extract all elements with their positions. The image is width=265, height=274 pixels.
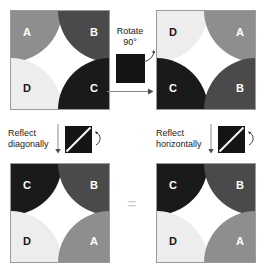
quarter-label: D xyxy=(169,236,177,247)
quarter-diagonal-tr: B xyxy=(58,163,110,215)
quarter-label: A xyxy=(23,27,31,38)
curved-reflect-arrow-icon xyxy=(248,131,258,147)
quarter-label: D xyxy=(23,236,31,247)
horizontal-arrow-icon xyxy=(107,87,154,96)
quarter-label: C xyxy=(90,83,98,94)
diagonal-line xyxy=(65,126,92,153)
quarter-label: D xyxy=(23,83,31,94)
quarter-disc xyxy=(10,10,62,62)
quarter-label: B xyxy=(236,180,244,191)
quarter-diagonal-br: A xyxy=(58,211,110,263)
curved-reflect-arrow-icon xyxy=(95,131,105,147)
quarter-disc xyxy=(156,10,208,62)
quarter-horizontal-tr: B xyxy=(204,163,256,215)
quarter-original-tr: B xyxy=(58,10,110,62)
quarter-original-bl: D xyxy=(10,58,62,110)
quarter-disc xyxy=(156,58,208,110)
rotate-caption: Rotate 90° xyxy=(104,26,156,48)
square-original: A B D C xyxy=(10,10,110,110)
diagonal-line-square-icon xyxy=(218,126,245,153)
quarter-original-tl: A xyxy=(10,10,62,62)
quarter-label: C xyxy=(23,180,31,191)
quarter-rotated-br: B xyxy=(204,58,256,110)
quarter-label: B xyxy=(90,27,98,38)
quarter-disc xyxy=(156,211,208,263)
reflect-horizontally-caption: Reflect horizontally xyxy=(156,128,202,150)
operation-reflect-diagonally: Reflect diagonally xyxy=(8,124,130,154)
down-arrow-icon xyxy=(206,124,216,154)
square-rotated-90: D A C B xyxy=(156,10,256,110)
quarter-label: C xyxy=(169,180,177,191)
square-reflected-diagonally: C B D A xyxy=(10,163,110,263)
quarter-disc xyxy=(58,163,110,215)
operation-rotate: Rotate 90° xyxy=(104,26,156,99)
reflect-diagonally-caption: Reflect diagonally xyxy=(8,128,49,150)
quarter-label: D xyxy=(169,27,177,38)
quarter-disc xyxy=(58,211,110,263)
quarter-disc xyxy=(10,163,62,215)
quarter-label: B xyxy=(90,180,98,191)
quarter-diagonal-tl: C xyxy=(10,163,62,215)
quarter-horizontal-tl: C xyxy=(156,163,208,215)
quarter-label: A xyxy=(236,236,244,247)
quarter-label: C xyxy=(169,83,177,94)
quarter-disc xyxy=(10,211,62,263)
operation-reflect-horizontally: Reflect horizontally xyxy=(156,124,265,154)
quarter-disc xyxy=(58,58,110,110)
quarter-horizontal-br: A xyxy=(204,211,256,263)
quarter-disc xyxy=(204,211,256,263)
quarter-disc xyxy=(204,58,256,110)
diagonal-line xyxy=(218,126,245,153)
quarter-rotated-tr: A xyxy=(204,10,256,62)
quarter-rotated-tl: D xyxy=(156,10,208,62)
quarter-disc xyxy=(156,163,208,215)
quarter-disc xyxy=(10,58,62,110)
quarter-label: A xyxy=(90,236,98,247)
quarter-disc xyxy=(58,10,110,62)
curved-rotate-arrow-icon xyxy=(142,49,156,63)
black-square-icon xyxy=(116,54,145,83)
quarter-horizontal-bl: D xyxy=(156,211,208,263)
quarter-disc xyxy=(204,163,256,215)
square-reflected-horizontally: C B D A xyxy=(156,163,256,263)
quarter-label: B xyxy=(236,83,244,94)
diagonal-line-square-icon xyxy=(65,126,92,153)
equals-sign: = xyxy=(120,196,144,211)
quarter-rotated-bl: C xyxy=(156,58,208,110)
quarter-disc xyxy=(204,10,256,62)
quarter-label: A xyxy=(236,27,244,38)
down-arrow-icon xyxy=(53,124,63,154)
quarter-original-br: C xyxy=(58,58,110,110)
quarter-diagonal-bl: D xyxy=(10,211,62,263)
